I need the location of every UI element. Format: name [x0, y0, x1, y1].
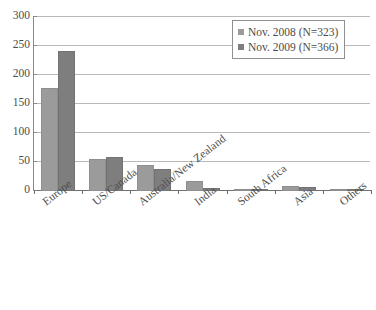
y-tick-label: 200 — [2, 68, 30, 80]
x-tick-mark — [130, 190, 131, 194]
x-tick-mark — [371, 190, 372, 194]
legend-item-label: Nov. 2008 (N=323) — [248, 26, 338, 38]
bar[interactable] — [58, 51, 75, 191]
bar[interactable] — [41, 88, 58, 191]
y-tick-label: 0 — [2, 184, 30, 196]
x-tick-mark — [323, 190, 324, 194]
x-tick-mark — [227, 190, 228, 194]
legend-item[interactable]: Nov. 2008 (N=323) — [238, 24, 338, 39]
y-tick-label: 150 — [2, 97, 30, 109]
y-axis-tick-labels: 300 250 200 150 100 50 0 — [0, 16, 30, 191]
bar-group — [41, 16, 75, 191]
y-tick-label: 50 — [2, 155, 30, 167]
bar[interactable] — [186, 181, 203, 191]
legend-item[interactable]: Nov. 2009 (N=366) — [238, 39, 338, 54]
y-tick-label: 300 — [2, 10, 30, 22]
x-tick-mark — [178, 190, 179, 194]
x-tick-mark — [82, 190, 83, 194]
bar[interactable] — [282, 186, 299, 191]
bar-group — [89, 16, 123, 191]
legend: Nov. 2008 (N=323) Nov. 2009 (N=366) — [232, 20, 345, 59]
legend-item-label: Nov. 2009 (N=366) — [248, 41, 338, 53]
y-tick-label: 100 — [2, 126, 30, 138]
square-swatch-icon — [238, 29, 244, 35]
x-tick-mark — [34, 190, 35, 194]
y-tick-label: 250 — [2, 39, 30, 51]
bar-group — [137, 16, 171, 191]
x-tick-mark — [275, 190, 276, 194]
bar-chart: 300 250 200 150 100 50 0 EuropeUS/Canada… — [0, 0, 376, 310]
square-swatch-icon — [238, 44, 244, 50]
